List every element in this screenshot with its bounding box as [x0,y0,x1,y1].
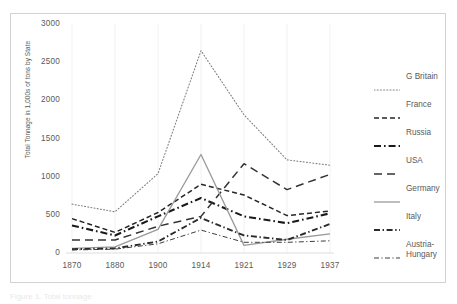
legend-label: Germany [406,184,440,194]
legend-item[interactable]: Russia [374,128,452,142]
legend-label: USA [406,156,423,166]
y-axis-tick: 3000 [16,19,60,28]
legend-item[interactable]: Italy [374,212,452,226]
y-axis-tick: 2000 [16,95,60,104]
legend-label: Austria-​Hungary [406,240,454,260]
legend-swatch-icon [374,162,400,165]
legend-label: France [406,100,431,110]
legend-item[interactable]: USA [374,156,452,170]
legend-swatch-icon [374,134,400,137]
legend-label: Italy [406,212,421,222]
x-axis-tick: 1921 [224,261,264,270]
x-axis-tick: 1937 [310,261,350,270]
x-axis-tick: 1914 [181,261,221,270]
legend-swatch-icon [374,246,400,249]
x-axis-tick: 1929 [267,261,307,270]
legend-swatch-icon [374,78,400,81]
legend-label: Russia [406,128,431,138]
figure-root: Total Tonnage in 1,000s of tons by State… [0,0,457,304]
y-axis-tick: 1500 [16,134,60,143]
legend-swatch-icon [374,106,400,109]
legend-swatch-icon [374,190,400,193]
legend-item[interactable]: Germany [374,184,452,198]
legend-swatch-icon [374,218,400,221]
legend-item[interactable]: G Britain [374,72,452,86]
x-axis-tick: 1870 [52,261,92,270]
y-axis-tick: 500 [16,210,60,219]
x-axis-tick: 1900 [138,261,178,270]
x-axis-tick: 1880 [95,261,135,270]
legend-item[interactable]: France [374,100,452,114]
legend-item[interactable]: Austria-​Hungary [374,240,452,254]
y-axis-tick: 2500 [16,57,60,66]
y-axis-tick: 0 [16,248,60,257]
figure-caption: Figure 1. Total tonnage [10,292,92,301]
legend-label: G Britain [406,72,438,82]
y-axis-tick: 1000 [16,172,60,181]
